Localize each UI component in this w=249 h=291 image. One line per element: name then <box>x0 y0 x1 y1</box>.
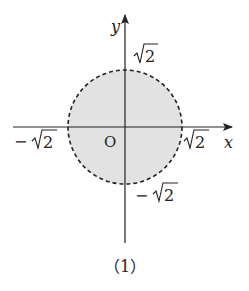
svg-text:−: − <box>14 132 27 151</box>
svg-text:2: 2 <box>195 133 205 152</box>
tick-label-x-negative: − 2 <box>14 130 57 152</box>
y-axis-label: y <box>110 17 121 36</box>
diagram-canvas: y x O 2 2 − 2 − 2 （1） <box>0 0 249 291</box>
origin-label: O <box>104 133 116 151</box>
x-axis-label: x <box>224 133 233 152</box>
tick-label-y-positive: 2 <box>134 44 158 66</box>
svg-text:2: 2 <box>43 133 53 152</box>
tick-label-y-negative: − 2 <box>135 183 178 205</box>
svg-text:−: − <box>135 186 148 205</box>
figure-caption: （1） <box>104 257 146 276</box>
tick-label-x-positive: 2 <box>184 130 209 152</box>
svg-text:2: 2 <box>164 186 174 205</box>
svg-text:2: 2 <box>145 47 155 66</box>
